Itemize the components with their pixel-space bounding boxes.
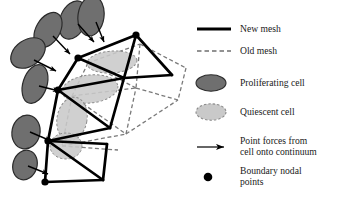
old-mesh-edge [136,88,178,100]
legend-label-boundary-nodal-points: Boundary nodal points [240,165,304,187]
proliferating-cell [9,112,43,151]
old-mesh-edge [126,100,178,134]
new-mesh-edge [124,75,172,78]
old-mesh-edge [178,68,186,100]
legend-item-proliferating-cell: Proliferating cell [196,75,305,91]
boundary-nodal-point [41,178,48,185]
old-mesh-edge [126,88,136,134]
boundary-nodal-point [74,54,81,61]
old-mesh-edge [136,44,140,88]
new-mesh-edge [136,35,172,75]
legend-label-old-mesh: Old mesh [240,45,277,56]
legend-item-new-mesh: New mesh [197,23,281,34]
legend-label-boundary-nodal-points-line1: Boundary nodal [240,165,302,176]
boundary-nodal-point [44,137,51,144]
proliferating-cell [9,147,41,183]
legend-item-old-mesh: Old mesh [197,45,277,56]
legend-label-new-mesh: New mesh [240,23,281,34]
boundary-nodal-point [132,31,139,38]
legend: New mesh Old mesh Proliferating cell Qui… [196,23,317,187]
diagram-canvas: New mesh Old mesh Proliferating cell Qui… [0,0,349,197]
legend-label-boundary-nodal-points-line2: points [240,176,264,187]
legend-label-proliferating-cell: Proliferating cell [240,77,305,88]
legend-item-boundary-nodal-points: Boundary nodal points [204,165,304,187]
light-dashed-ellipse-icon [196,104,226,120]
filled-ellipse-icon [196,75,226,91]
legend-item-point-forces: Point forces from cell onto continuum [197,135,317,157]
legend-label-quiescent-cell: Quiescent cell [240,106,295,117]
figure-root: New mesh Old mesh Proliferating cell Qui… [0,0,349,197]
new-mesh-edge [48,90,58,141]
legend-label-point-forces: Point forces from cell onto continuum [240,135,317,157]
new-mesh-edge [45,180,103,182]
new-mesh-edge [45,141,48,182]
filled-dot-icon [204,173,213,182]
legend-item-quiescent-cell: Quiescent cell [196,104,295,120]
legend-label-point-forces-line2: cell onto continuum [240,146,317,157]
boundary-nodal-point [54,86,61,93]
legend-label-point-forces-line1: Point forces from [240,135,308,146]
